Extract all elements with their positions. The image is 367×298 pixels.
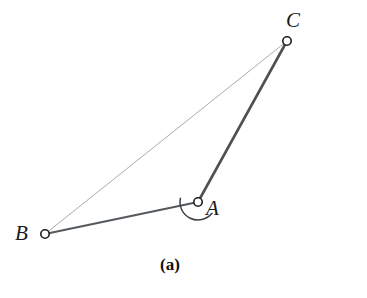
vertex-marker-b (41, 230, 49, 238)
segments-group (45, 41, 287, 234)
geometry-figure: A B C (a) (0, 0, 367, 298)
vertex-label-c: C (286, 10, 300, 31)
vertex-label-b: B (15, 223, 28, 244)
geometry-canvas (0, 0, 367, 298)
segment-bc (45, 41, 287, 234)
vertex-label-a: A (206, 198, 219, 219)
figure-caption: (a) (0, 256, 340, 273)
vertex-marker-c (283, 37, 291, 45)
segment-ac (198, 41, 287, 202)
vertex-marker-a (194, 198, 202, 206)
segment-ab (45, 202, 198, 234)
